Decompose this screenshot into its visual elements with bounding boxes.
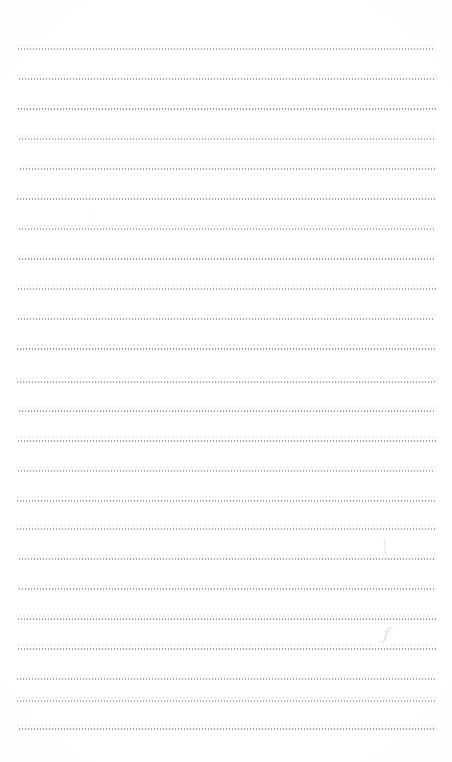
page-content-area bbox=[0, 0, 452, 762]
scanned-notebook-page: ′│ƒ bbox=[0, 0, 452, 762]
